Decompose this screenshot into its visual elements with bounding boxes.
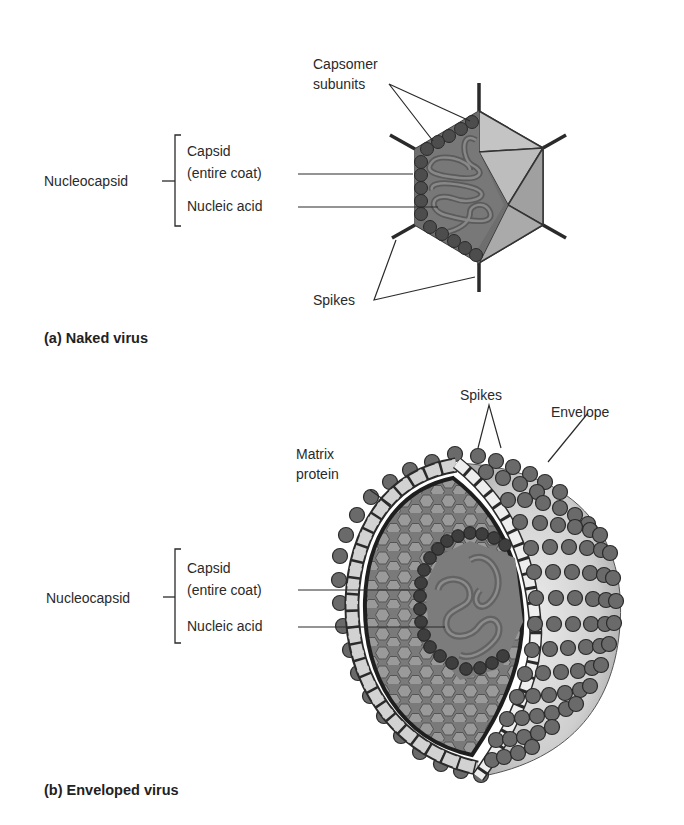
capsid-label-b-line1: Capsid bbox=[187, 560, 231, 577]
matrix-protein-label-line2: protein bbox=[296, 466, 339, 483]
naked-virus-illustration bbox=[162, 83, 566, 300]
capsid-label-a-line1: Capsid bbox=[187, 143, 231, 160]
matrix-protein-label-line1: Matrix bbox=[296, 446, 334, 463]
spikes-label-a: Spikes bbox=[313, 292, 355, 309]
envelope-label: Envelope bbox=[551, 404, 609, 421]
spikes-label-b: Spikes bbox=[460, 387, 502, 404]
capsomer-subunits-label-line2: subunits bbox=[313, 76, 365, 93]
caption-enveloped-virus: (b) Enveloped virus bbox=[44, 782, 179, 798]
capsid-label-b-line2: (entire coat) bbox=[187, 582, 262, 599]
nucleocapsid-label-a: Nucleocapsid bbox=[44, 173, 128, 190]
nucleic-acid-label-a: Nucleic acid bbox=[187, 198, 262, 215]
capsomer-subunits-label-line1: Capsomer bbox=[313, 56, 378, 73]
nucleocapsid-label-b: Nucleocapsid bbox=[46, 590, 130, 607]
nucleic-acid-label-b: Nucleic acid bbox=[187, 618, 262, 635]
capsid-label-a-line2: (entire coat) bbox=[187, 165, 262, 182]
caption-naked-virus: (a) Naked virus bbox=[44, 330, 148, 346]
